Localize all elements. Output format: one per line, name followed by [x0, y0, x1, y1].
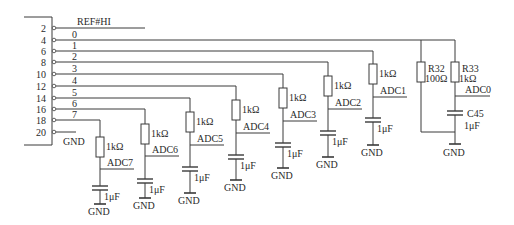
- adc-channels: 1kΩADC71μFGND1kΩADC61μFGND1kΩADC51μFGND1…: [56, 51, 407, 217]
- resistor: [324, 76, 332, 96]
- resistor-value: 1kΩ: [334, 80, 351, 91]
- pin-terminal-icon: [52, 84, 56, 88]
- net-label: 7: [72, 109, 77, 120]
- capacitor-value: 1μF: [287, 148, 303, 159]
- adc-label: ADC7: [107, 157, 133, 168]
- adc-label: ADC3: [290, 109, 316, 120]
- channel-5: 1kΩADC51μFGND: [56, 98, 224, 206]
- c45-designator: C45: [467, 108, 484, 119]
- resistor-value: 1kΩ: [242, 104, 259, 115]
- gnd-label: GND: [316, 159, 338, 170]
- gnd-label: GND: [361, 147, 383, 158]
- pin-number: 6: [41, 46, 46, 57]
- pin-number: 18: [36, 115, 46, 126]
- adc-label: ADC6: [152, 144, 178, 155]
- pin-terminal-icon: [52, 107, 56, 111]
- gnd-label: GND: [88, 206, 110, 217]
- pin-number: 2: [41, 23, 46, 34]
- pin-number: 16: [36, 104, 46, 115]
- resistor: [96, 137, 104, 157]
- pin-terminal-icon: [52, 130, 56, 134]
- connector-gnd-label: GND: [63, 136, 85, 147]
- resistor: [232, 100, 240, 120]
- pin-terminal-icon: [52, 26, 56, 30]
- resistor-value: 1kΩ: [289, 92, 306, 103]
- resistor: [279, 88, 287, 108]
- adc-label: ADC1: [380, 85, 406, 96]
- resistor: [186, 112, 194, 132]
- adc0-label: ADC0: [465, 84, 491, 95]
- channel-7: 1kΩADC71μFGND: [56, 120, 134, 217]
- net-label: 0: [72, 29, 77, 40]
- gnd-label: GND: [178, 195, 200, 206]
- capacitor-value: 1μF: [377, 123, 393, 134]
- capacitor-value: 1μF: [240, 160, 256, 171]
- connector: 240618210312414516618720: [24, 17, 77, 145]
- net-label: 1: [72, 40, 77, 51]
- pin-terminal-icon: [52, 49, 56, 53]
- net-label: 4: [72, 75, 77, 86]
- pin-number: 20: [36, 127, 46, 138]
- resistor-value: 1kΩ: [151, 128, 168, 139]
- r33-resistor: [451, 62, 459, 82]
- gnd-label-0: GND: [443, 147, 465, 158]
- pin-number: 8: [41, 57, 46, 68]
- gnd-label: GND: [133, 200, 155, 211]
- capacitor-value: 1μF: [332, 136, 348, 147]
- gnd-label: GND: [224, 182, 246, 193]
- adc-label: ADC4: [243, 121, 269, 132]
- adc-label: ADC2: [335, 97, 361, 108]
- net-label: 2: [72, 51, 77, 62]
- pin-terminal-icon: [52, 96, 56, 100]
- r32-value: 100Ω: [425, 73, 447, 84]
- pin-number: 4: [41, 35, 46, 46]
- resistor: [141, 124, 149, 144]
- pin-number: 12: [36, 81, 46, 92]
- pin-number: 14: [36, 93, 46, 104]
- gnd-label: GND: [271, 170, 293, 181]
- net-label: 6: [72, 98, 77, 109]
- resistor-value: 1kΩ: [106, 141, 123, 152]
- pin-terminal-icon: [52, 118, 56, 122]
- resistor: [369, 64, 377, 84]
- net-label: 5: [72, 87, 77, 98]
- pin-number: 10: [36, 69, 46, 80]
- capacitor-value: 1μF: [104, 191, 120, 202]
- resistor-value: 1kΩ: [196, 116, 213, 127]
- resistor-value: 1kΩ: [379, 68, 396, 79]
- ref-hi-label: REF#HI: [77, 16, 111, 27]
- pin-terminal-icon: [52, 38, 56, 42]
- pin-terminal-icon: [52, 72, 56, 76]
- r32-resistor: [417, 62, 425, 82]
- circuit-schematic: 240618210312414516618720 REF#HI GND 1kΩA…: [0, 0, 514, 225]
- capacitor-value: 1μF: [194, 172, 210, 183]
- c45-value: 1μF: [464, 120, 480, 131]
- channel-4: 1kΩADC41μFGND: [56, 86, 270, 193]
- r33-value: 1kΩ: [459, 73, 476, 84]
- pin-terminal-icon: [52, 60, 56, 64]
- capacitor-value: 1μF: [149, 184, 165, 195]
- adc-label: ADC5: [197, 133, 223, 144]
- net-label: 3: [72, 63, 77, 74]
